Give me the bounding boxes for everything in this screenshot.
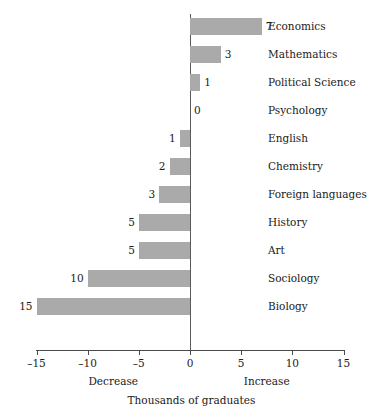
increase-direction-label: Increase xyxy=(217,374,317,388)
bar-value-label: 2 xyxy=(152,157,166,175)
bar xyxy=(190,74,200,91)
bar-value-label: 0 xyxy=(194,101,201,119)
category-label: History xyxy=(268,213,307,231)
axis-tick-label: –10 xyxy=(68,356,108,370)
category-label: Foreign languages xyxy=(268,185,367,203)
category-label: Art xyxy=(268,241,285,259)
bar-row: 3Foreign languages xyxy=(0,182,383,210)
category-label: Political Science xyxy=(268,73,356,91)
category-label: Biology xyxy=(268,297,308,315)
axis-tick xyxy=(344,350,345,355)
bar-value-label: 3 xyxy=(141,185,155,203)
bar-value-label: 3 xyxy=(225,45,232,63)
category-label: Mathematics xyxy=(268,45,337,63)
bar xyxy=(139,242,190,259)
bar-row: 15Biology xyxy=(0,294,383,322)
diverging-bar-chart: 7Economics3Mathematics1Political Science… xyxy=(0,0,383,417)
category-label: Economics xyxy=(268,17,326,35)
axis-tick-label: 10 xyxy=(272,356,312,370)
bar-row: 5History xyxy=(0,210,383,238)
x-axis-title: Thousands of graduates xyxy=(0,393,383,407)
bar-row: 1English xyxy=(0,126,383,154)
axis-tick-label: –5 xyxy=(119,356,159,370)
bar-row: 2Chemistry xyxy=(0,154,383,182)
axis-tick xyxy=(37,350,38,355)
bar-value-label: 5 xyxy=(121,213,135,231)
bar-row: 3Mathematics xyxy=(0,42,383,70)
bar xyxy=(37,298,191,315)
bar-row: 5Art xyxy=(0,238,383,266)
bar xyxy=(180,130,190,147)
axis-tick xyxy=(292,350,293,355)
bar xyxy=(190,18,262,35)
bar-value-label: 15 xyxy=(19,297,33,315)
category-label: Chemistry xyxy=(268,157,323,175)
bar xyxy=(88,270,190,287)
bar xyxy=(190,46,221,63)
bar-value-label: 5 xyxy=(121,241,135,259)
axis-tick xyxy=(190,350,191,355)
bar-row: 1Political Science xyxy=(0,70,383,98)
bar xyxy=(159,186,190,203)
axis-tick-label: 5 xyxy=(221,356,261,370)
bar-row: 0Psychology xyxy=(0,98,383,126)
bar-row: 7Economics xyxy=(0,14,383,42)
plot-area: 7Economics3Mathematics1Political Science… xyxy=(0,0,383,360)
category-label: Sociology xyxy=(268,269,319,287)
axis-tick-label: 0 xyxy=(170,356,210,370)
axis-tick xyxy=(241,350,242,355)
category-label: Psychology xyxy=(268,101,327,119)
category-label: English xyxy=(268,129,308,147)
axis-tick xyxy=(139,350,140,355)
bar-value-label: 10 xyxy=(70,269,84,287)
axis-tick-label: –15 xyxy=(17,356,57,370)
bar xyxy=(139,214,190,231)
axis-tick xyxy=(88,350,89,355)
decrease-direction-label: Decrease xyxy=(63,374,163,388)
axis-tick-label: 15 xyxy=(324,356,364,370)
bar-value-label: 1 xyxy=(162,129,176,147)
bar-value-label: 1 xyxy=(204,73,211,91)
bar xyxy=(170,158,190,175)
bar-row: 10Sociology xyxy=(0,266,383,294)
